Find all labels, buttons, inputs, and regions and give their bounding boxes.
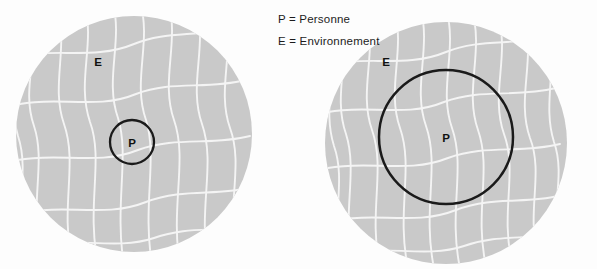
panel-left (12, 0, 261, 266)
person-label-left: P (128, 137, 136, 149)
legend-item-environment: E = Environnement (278, 30, 448, 52)
person-label-right: P (442, 132, 450, 144)
environment-label-left: E (94, 56, 102, 68)
legend-item-person: P = Personne (278, 8, 448, 30)
environment-disc-left (16, 16, 252, 252)
environment-label-right: E (382, 56, 390, 68)
legend: P = Personne E = Environnement (278, 8, 448, 52)
